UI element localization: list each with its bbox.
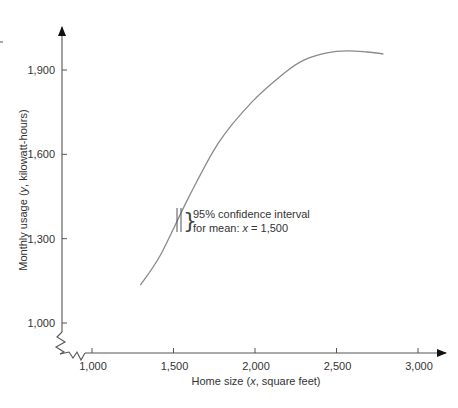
x-tick-label: 3,000 (405, 360, 433, 372)
y-axis (56, 27, 65, 354)
x-tick-label: 2,000 (242, 360, 270, 372)
y-tick-label: 1,300 (27, 233, 55, 245)
x-ticks: 1,0001,5002,0002,5003,000 (79, 348, 433, 372)
x-axis-break-icon (60, 352, 85, 360)
annotation-line-1: 95% confidence interval (193, 208, 310, 220)
y-ticks: 1,0001,3001,6001,900 (27, 64, 67, 329)
chart: 1,0001,3001,6001,900 1,0001,5002,0002,50… (0, 0, 458, 408)
x-tick-label: 1,000 (79, 360, 107, 372)
y-tick-label: 1,000 (27, 317, 55, 329)
y-tick-label: 1,600 (27, 148, 55, 160)
y-tick-label: 1,900 (27, 64, 55, 76)
x-axis-label: Home size (x, square feet) (191, 375, 320, 387)
regression-curve (140, 51, 383, 285)
annotation-line-2: for mean: x = 1,500 (193, 222, 288, 234)
x-tick-label: 1,500 (161, 360, 189, 372)
y-axis-break-icon (56, 332, 65, 354)
y-axis-label: Monthly usage (y, kilowatt-hours) (17, 109, 29, 270)
x-axis (60, 352, 446, 360)
confidence-interval-annotation: } 95% confidence interval for mean: x = … (177, 208, 310, 234)
x-tick-label: 2,500 (324, 360, 352, 372)
